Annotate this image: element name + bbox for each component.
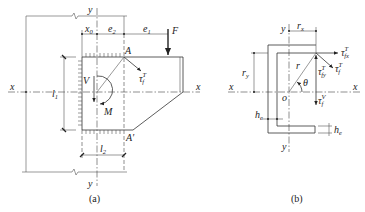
bottom-break-line <box>22 169 127 175</box>
weld-hatch-top <box>86 53 120 57</box>
dim-tick <box>276 118 278 120</box>
label-A: A <box>124 45 132 56</box>
figure-a: y y x x x0 e2 e1 F A A′ τTf V M l1 l2 (a… <box>8 4 201 205</box>
label-rx: rx <box>297 20 304 32</box>
label-he-right: he <box>334 124 342 136</box>
label-tau-fx: τTfx <box>341 45 349 59</box>
label-y-top-b: y <box>280 23 286 34</box>
label-e2: e2 <box>108 23 116 35</box>
label-theta: θ <box>303 77 308 88</box>
label-V: V <box>83 75 91 86</box>
label-F: F <box>171 25 179 36</box>
label-l1: l1 <box>52 88 58 100</box>
caption-b: (b) <box>291 193 303 205</box>
top-break-line <box>26 13 127 19</box>
axis-origin-dot <box>25 91 27 93</box>
label-origin-o: o <box>282 92 287 103</box>
label-x-right-a: x <box>195 81 201 92</box>
theta-arc <box>297 82 302 92</box>
diagram-svg: y y x x x0 e2 e1 F A A′ τTf V M l1 l2 (a… <box>0 0 365 212</box>
weld-hatch-left <box>78 61 82 125</box>
label-x0: x0 <box>84 23 93 35</box>
radius-line-a <box>97 57 124 92</box>
dim-tick <box>253 91 255 93</box>
label-r: r <box>296 60 300 71</box>
label-he-left: he <box>255 109 263 121</box>
label-tau-v: τVf <box>318 93 327 107</box>
angle-outer <box>268 45 316 133</box>
label-l2: l2 <box>100 143 107 155</box>
label-x-right-b: x <box>352 81 358 92</box>
weld-hatch-bottom <box>86 130 120 134</box>
label-y-bottom-b: y <box>281 141 287 152</box>
angle-bottom-flange <box>268 126 315 133</box>
label-e1: e1 <box>143 23 151 35</box>
weld-stress-diagram: y y x x x0 e2 e1 F A A′ τTf V M l1 l2 (a… <box>0 0 365 212</box>
dim-tick <box>267 118 269 120</box>
dim-tick <box>315 30 317 32</box>
label-tau-fy: τTfy <box>318 64 326 78</box>
figure-b: y y x x o rx ry r θ τTfx τTfy τTf τVf he… <box>228 20 362 205</box>
dim-tick <box>96 33 98 35</box>
label-M: M <box>103 106 113 117</box>
label-x-left-a: x <box>9 81 15 92</box>
dim-tick <box>288 30 290 32</box>
label-tau-f: τTf <box>335 61 343 75</box>
dim-tick <box>253 52 255 54</box>
caption-a: (a) <box>89 193 100 205</box>
moment-arc-M <box>97 76 113 104</box>
label-y-top-a: y <box>87 4 93 15</box>
label-tau-a: τTf <box>139 71 147 85</box>
label-x-left-b: x <box>228 81 234 92</box>
label-ry: ry <box>242 67 249 79</box>
label-y-bottom-a: y <box>87 178 93 189</box>
tau-arrow-a <box>124 57 141 71</box>
dim-tick <box>81 33 83 35</box>
label-A-prime: A′ <box>125 132 135 143</box>
